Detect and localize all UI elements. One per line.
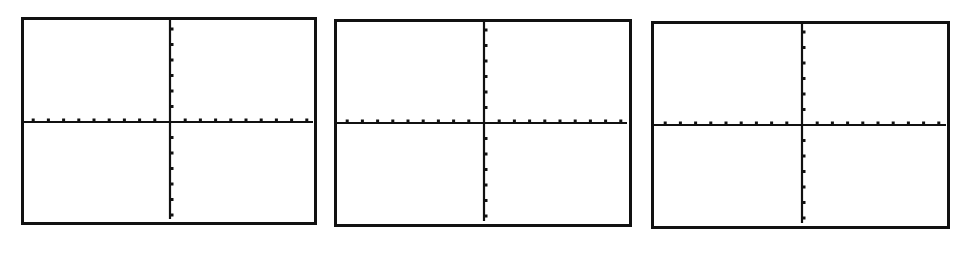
y-tick: [484, 168, 488, 171]
y-tick: [802, 31, 806, 34]
y-tick: [170, 183, 174, 186]
x-tick: [346, 120, 349, 124]
x-tick: [816, 122, 819, 126]
x-tick: [679, 122, 682, 126]
y-tick: [170, 74, 174, 77]
x-tick: [937, 122, 940, 126]
x-tick: [229, 119, 232, 123]
y-tick: [484, 44, 488, 47]
x-tick: [452, 120, 455, 124]
y-tick: [170, 43, 174, 46]
x-tick: [528, 120, 531, 124]
x-tick: [725, 122, 728, 126]
x-tick: [108, 119, 111, 123]
coordinate-axes: [337, 22, 629, 224]
y-tick: [484, 137, 488, 140]
x-tick: [709, 122, 712, 126]
y-tick: [484, 29, 488, 32]
x-tick: [260, 119, 263, 123]
y-tick: [802, 93, 806, 96]
x-tick: [305, 119, 308, 123]
x-tick: [153, 119, 156, 123]
x-tick: [214, 119, 217, 123]
x-tick: [407, 120, 410, 124]
y-tick: [802, 108, 806, 111]
y-tick: [802, 155, 806, 158]
x-tick: [47, 119, 50, 123]
x-tick: [437, 120, 440, 124]
x-tick: [275, 119, 278, 123]
x-tick: [922, 122, 925, 126]
y-tick: [170, 167, 174, 170]
y-tick: [484, 184, 488, 187]
x-tick: [664, 122, 667, 126]
y-tick: [170, 59, 174, 62]
x-tick: [694, 122, 697, 126]
coordinate-axes: [654, 24, 947, 226]
x-tick: [755, 122, 758, 126]
y-tick: [802, 201, 806, 204]
x-tick: [831, 122, 834, 126]
x-tick: [376, 120, 379, 124]
x-tick: [138, 119, 141, 123]
y-tick: [484, 199, 488, 202]
y-tick: [170, 28, 174, 31]
x-tick: [199, 119, 202, 123]
x-tick: [861, 122, 864, 126]
graph-panel-1: Blank coordinate grid 1: [21, 17, 317, 225]
y-tick: [484, 106, 488, 109]
y-tick: [802, 186, 806, 189]
y-tick: [802, 217, 806, 220]
x-tick: [62, 119, 65, 123]
x-tick: [184, 119, 187, 123]
x-tick: [589, 120, 592, 124]
y-tick: [170, 152, 174, 155]
coordinate-axes: [24, 20, 314, 222]
x-tick: [245, 119, 248, 123]
y-tick: [484, 60, 488, 63]
y-tick: [802, 77, 806, 80]
x-tick: [604, 120, 607, 124]
x-tick: [93, 119, 96, 123]
x-tick: [513, 120, 516, 124]
x-tick: [559, 120, 562, 124]
x-tick: [391, 120, 394, 124]
y-tick: [802, 139, 806, 142]
y-tick: [484, 91, 488, 94]
x-tick: [32, 119, 35, 123]
x-tick: [361, 120, 364, 124]
x-tick: [498, 120, 501, 124]
x-tick: [877, 122, 880, 126]
y-tick: [484, 75, 488, 78]
y-tick: [802, 62, 806, 65]
y-tick: [170, 214, 174, 217]
x-tick: [574, 120, 577, 124]
y-tick: [802, 46, 806, 49]
x-tick: [123, 119, 126, 123]
x-tick: [846, 122, 849, 126]
x-tick: [770, 122, 773, 126]
x-tick: [543, 120, 546, 124]
y-tick: [484, 215, 488, 218]
x-tick: [892, 122, 895, 126]
y-tick: [170, 136, 174, 139]
y-tick: [170, 198, 174, 201]
graph-panel-2: Blank coordinate grid 2: [334, 19, 632, 227]
y-tick: [170, 90, 174, 93]
x-tick: [619, 120, 622, 124]
y-tick: [170, 105, 174, 108]
x-tick: [785, 122, 788, 126]
x-tick: [290, 119, 293, 123]
graph-panel-3: Blank coordinate grid 3: [651, 21, 950, 229]
x-tick: [77, 119, 80, 123]
x-tick: [422, 120, 425, 124]
x-tick: [467, 120, 470, 124]
y-tick: [484, 153, 488, 156]
x-tick: [740, 122, 743, 126]
y-tick: [802, 170, 806, 173]
x-tick: [907, 122, 910, 126]
